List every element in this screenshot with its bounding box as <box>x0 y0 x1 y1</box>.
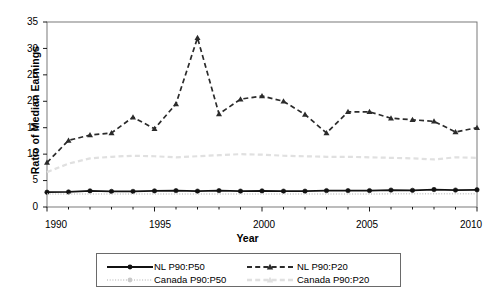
legend: NL P90:P50 Canada P90:P50 NL P90:P20 Can… <box>96 253 401 287</box>
chart-figure: Ratio of Median Earnings Year 0 5 10 15 … <box>0 0 495 300</box>
series-line-1 <box>47 38 477 163</box>
series-line-3 <box>47 154 477 172</box>
legend-key-swatches <box>97 254 402 288</box>
